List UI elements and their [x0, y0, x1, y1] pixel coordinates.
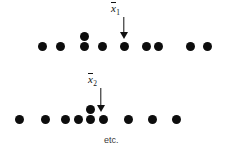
data-point	[98, 42, 107, 51]
data-point	[74, 115, 83, 124]
mean-2-arrow	[96, 88, 106, 112]
dotplot-figure: x1 x2 etc.	[0, 0, 227, 152]
data-point	[172, 115, 181, 124]
mean-1-arrow-head	[120, 32, 128, 39]
mean-2-overbar	[88, 73, 94, 74]
mean-2-arrow-shaft	[100, 88, 101, 106]
data-point	[120, 42, 129, 51]
data-point	[38, 42, 47, 51]
mean-1-subscript: 1	[116, 8, 120, 17]
data-point	[124, 115, 133, 124]
etc-label: etc.	[104, 136, 119, 145]
data-point	[56, 42, 65, 51]
data-point	[15, 115, 24, 124]
mean-2-arrow-head	[97, 105, 105, 112]
data-point	[203, 42, 212, 51]
data-point	[80, 42, 89, 51]
data-point	[86, 115, 95, 124]
mean-1-arrow	[119, 17, 129, 39]
data-point	[80, 32, 89, 41]
data-point	[61, 115, 70, 124]
data-point	[41, 115, 50, 124]
mean-2-label: x2	[88, 74, 97, 85]
data-point	[154, 42, 163, 51]
data-point	[86, 105, 95, 114]
mean-1-overbar	[111, 2, 117, 3]
mean-2-subscript: 2	[93, 79, 97, 88]
data-point	[142, 42, 151, 51]
data-point	[186, 42, 195, 51]
mean-1-label: x1	[111, 3, 120, 14]
mean-1-arrow-shaft	[123, 17, 124, 33]
data-point	[99, 115, 108, 124]
data-point	[148, 115, 157, 124]
